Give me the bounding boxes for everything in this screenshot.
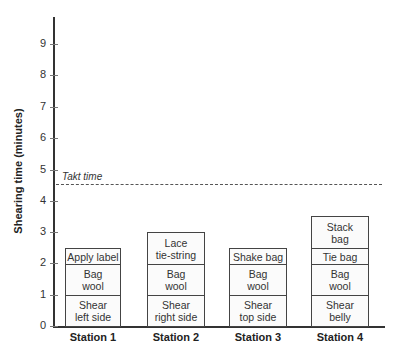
segment-stack-bag: Stack bag — [311, 216, 369, 249]
bar-station-3: Shear top side Bag wool Shake bag — [229, 248, 287, 327]
takt-time-label: Takt time — [62, 171, 102, 182]
y-tick — [50, 201, 58, 202]
bar-station-2: Shear right side Bag wool Lace tie-strin… — [147, 232, 205, 327]
y-tick — [50, 232, 58, 233]
y-tick-label: 4 — [34, 194, 46, 206]
segment-shear-left-side: Shear left side — [65, 295, 121, 327]
y-tick-label: 7 — [34, 100, 46, 112]
y-tick — [50, 263, 58, 264]
y-tick — [50, 295, 58, 296]
bar-station-4: Shear belly Bag wool Tie bag Stack bag — [311, 216, 369, 327]
bar-station-1: Shear left side Bag wool Apply label — [65, 248, 121, 327]
y-axis-label: Shearing time (minutes) — [12, 101, 24, 241]
segment-shake-bag: Shake bag — [229, 248, 287, 265]
segment-bag-wool: Bag wool — [311, 264, 369, 296]
segment-bag-wool: Bag wool — [147, 264, 205, 296]
station-1-label: Station 1 — [53, 331, 133, 343]
segment-apply-label: Apply label — [65, 248, 121, 265]
y-tick-label: 5 — [34, 163, 46, 175]
segment-tie-bag: Tie bag — [311, 248, 369, 265]
y-tick-label: 0 — [34, 319, 46, 331]
station-2-label: Station 2 — [136, 331, 216, 343]
y-tick — [50, 138, 58, 139]
segment-lace-tie-string: Lace tie-string — [147, 232, 205, 265]
segment-shear-right-side: Shear right side — [147, 295, 205, 327]
y-tick — [50, 75, 58, 76]
station-4-label: Station 4 — [300, 331, 380, 343]
y-tick-label: 2 — [34, 256, 46, 268]
segment-shear-top-side: Shear top side — [229, 295, 287, 327]
shearing-time-chart: Shearing time (minutes) 0 1 2 3 4 5 6 7 … — [0, 0, 400, 362]
segment-bag-wool: Bag wool — [229, 264, 287, 296]
y-tick-label: 1 — [34, 288, 46, 300]
y-axis — [53, 17, 55, 327]
takt-time-line — [56, 184, 382, 185]
y-tick-label: 6 — [34, 131, 46, 143]
segment-bag-wool: Bag wool — [65, 264, 121, 296]
y-tick — [50, 170, 58, 171]
y-tick — [50, 107, 58, 108]
y-tick — [50, 44, 58, 45]
y-tick-label: 3 — [34, 225, 46, 237]
y-tick-label: 8 — [34, 68, 46, 80]
station-3-label: Station 3 — [218, 331, 298, 343]
y-tick-label: 9 — [34, 37, 46, 49]
y-tick — [50, 326, 58, 327]
segment-shear-belly: Shear belly — [311, 295, 369, 327]
